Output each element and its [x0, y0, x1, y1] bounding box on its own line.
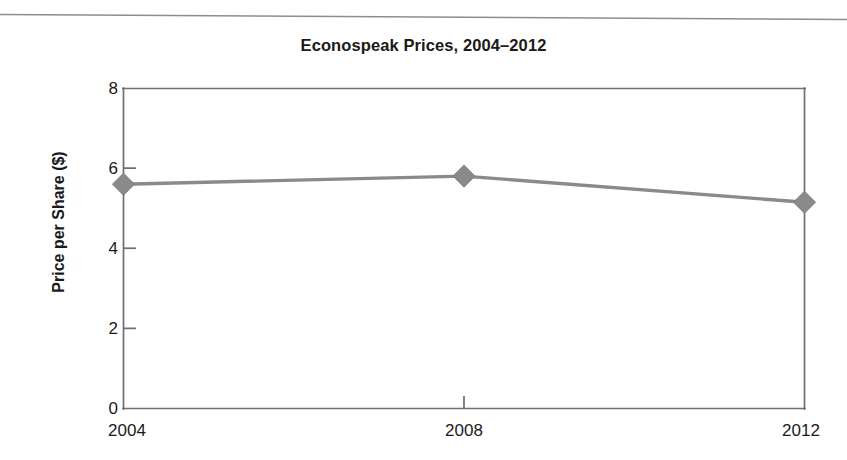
- y-tick-label-6: 6: [88, 160, 118, 177]
- x-tick-label-2008: 2008: [424, 421, 504, 440]
- plot-background: [123, 88, 805, 409]
- plot-area: [0, 0, 847, 460]
- y-tick-label-0: 0: [88, 400, 118, 417]
- y-tick-label-4: 4: [88, 240, 118, 257]
- y-tick-label-2: 2: [88, 320, 118, 337]
- y-tick-label-8: 8: [88, 80, 118, 97]
- chart-page: Econospeak Prices, 2004–2012 Price per S…: [0, 0, 847, 460]
- x-tick-label-2004: 2004: [87, 421, 167, 440]
- x-tick-label-2012: 2012: [761, 421, 841, 440]
